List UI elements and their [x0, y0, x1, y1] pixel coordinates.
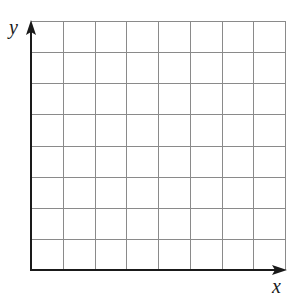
axes — [26, 20, 287, 275]
coordinate-grid — [0, 0, 299, 303]
grid-lines — [31, 21, 286, 270]
x-axis-label: x — [272, 276, 281, 296]
y-axis-label: y — [9, 17, 18, 37]
